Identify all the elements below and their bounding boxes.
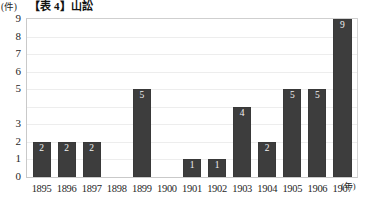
bar-slot: [104, 19, 129, 177]
y-axis-tick-label: 3: [16, 118, 22, 129]
bar-slot: 2: [79, 19, 104, 177]
y-axis-unit-label: (件): [1, 0, 17, 14]
bar-slot: 1: [205, 19, 230, 177]
bar[interactable]: 5: [308, 89, 326, 177]
bar-value-label: 5: [133, 90, 151, 101]
bar[interactable]: 2: [83, 142, 101, 177]
y-axis-tick-label: 2: [16, 136, 22, 147]
chart-header: (件) 【表 4】山訟: [0, 0, 366, 15]
bar-slot: 2: [54, 19, 79, 177]
bar-slot: 5: [129, 19, 154, 177]
x-axis-tick-label: 1898: [104, 181, 129, 199]
y-axis-tick-label: 9: [16, 13, 22, 24]
y-axis-tick-label: 7: [16, 48, 22, 59]
x-axis-tick-label: 1895: [29, 181, 54, 199]
bar[interactable]: 4: [233, 107, 251, 177]
y-axis-tick-label: 0: [16, 171, 22, 182]
bar-slot: 5: [280, 19, 305, 177]
x-axis-tick-label: 1899: [129, 181, 154, 199]
bar[interactable]: 5: [283, 89, 301, 177]
y-axis-tick-label: 1: [16, 153, 22, 164]
bar[interactable]: 9: [333, 19, 351, 177]
chart-title: 【表 4】山訟: [29, 0, 93, 14]
bar-slot: 2: [29, 19, 54, 177]
bar-value-label: 2: [33, 143, 51, 154]
x-axis: 1895189618971898189919001901190219031904…: [27, 181, 357, 199]
bar-series: 22251142559: [27, 19, 357, 177]
x-axis-tick-label: 1905: [280, 181, 305, 199]
bar-slot: [154, 19, 179, 177]
x-axis-tick-label: 1903: [230, 181, 255, 199]
bar-slot: 9: [330, 19, 355, 177]
bar-value-label: 2: [83, 143, 101, 154]
bar-slot: 5: [305, 19, 330, 177]
x-axis-tick-label: 1901: [179, 181, 204, 199]
x-axis-unit-label: (年): [341, 179, 356, 193]
bar-value-label: 2: [58, 143, 76, 154]
bar[interactable]: 2: [33, 142, 51, 177]
bar-value-label: 2: [258, 143, 276, 154]
x-axis-tick-label: 1897: [79, 181, 104, 199]
x-axis-tick-label: 1900: [154, 181, 179, 199]
bar-value-label: 5: [283, 90, 301, 101]
y-axis-tick-label: 8: [16, 31, 22, 42]
x-axis-tick-label: 1904: [255, 181, 280, 199]
y-axis: 987653210: [0, 18, 26, 178]
bar-slot: 4: [230, 19, 255, 177]
x-axis-tick-label: 1902: [205, 181, 230, 199]
bar-value-label: 1: [208, 160, 226, 171]
bar-value-label: 5: [308, 90, 326, 101]
bar[interactable]: 1: [208, 159, 226, 177]
bar-slot: 1: [179, 19, 204, 177]
chart-figure: (件) 【表 4】山訟 987653210 22251142559 189518…: [0, 0, 366, 203]
y-axis-tick-label: 6: [16, 66, 22, 77]
bar[interactable]: 2: [258, 142, 276, 177]
x-axis-tick-label: 1906: [305, 181, 330, 199]
bar-value-label: 1: [183, 160, 201, 171]
x-axis-tick-label: 1896: [54, 181, 79, 199]
y-axis-tick-label: 5: [16, 83, 22, 94]
bar[interactable]: 2: [58, 142, 76, 177]
bar[interactable]: 1: [183, 159, 201, 177]
bar-value-label: 4: [233, 108, 251, 119]
bar-value-label: 9: [333, 20, 351, 31]
bar-slot: 2: [255, 19, 280, 177]
bar[interactable]: 5: [133, 89, 151, 177]
